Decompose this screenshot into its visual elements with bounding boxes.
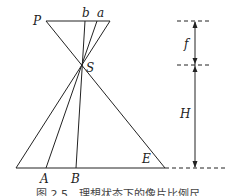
label-B: B: [70, 172, 80, 186]
arrow-down-H-icon: [193, 161, 198, 168]
arrow-up-f-icon: [193, 21, 198, 28]
ray-b-B: [76, 21, 85, 168]
ray-a-A: [46, 21, 97, 168]
label-f: f: [183, 37, 191, 51]
label-P: P: [32, 14, 42, 28]
label-S: S: [86, 61, 94, 75]
label-H: H: [179, 107, 191, 121]
arrow-down-f-icon: [193, 58, 198, 64]
figure-caption: 图 2.5 理想状态下的像片比例尺: [36, 187, 200, 196]
label-E: E: [141, 152, 151, 166]
ray-P-E: [46, 21, 165, 168]
photo-scale-diagram: P b a S A B E f H 图 2.5 理想状态下的像片比例尺: [0, 0, 235, 196]
label-b: b: [82, 6, 90, 20]
diagram-canvas: P b a S A B E f H 图 2.5 理想状态下的像片比例尺: [0, 0, 235, 196]
label-a: a: [97, 6, 104, 20]
label-A: A: [39, 172, 49, 186]
arrow-up-H-icon: [193, 66, 198, 72]
ray-edge-left: [16, 21, 110, 168]
